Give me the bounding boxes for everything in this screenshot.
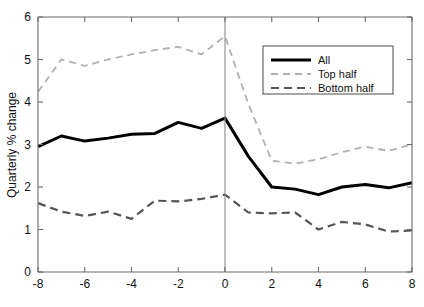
x-tick-label: -2 <box>173 277 184 291</box>
y-tick-label: 1 <box>24 223 31 237</box>
x-tick-label: 8 <box>409 277 416 291</box>
x-tick-label: -8 <box>33 277 44 291</box>
y-tick-label: 2 <box>24 180 31 194</box>
y-tick-label: 4 <box>24 95 31 109</box>
legend-label-top-half: Top half <box>318 68 357 80</box>
y-tick-label: 0 <box>24 265 31 279</box>
y-tick-label: 5 <box>24 53 31 67</box>
y-axis-title: Quarterly % change <box>5 92 19 198</box>
x-tick-label: 6 <box>362 277 369 291</box>
legend-label-all: All <box>318 54 330 66</box>
line-chart: -8-6-4-2024680123456 Quarterly % change … <box>0 0 424 307</box>
chart-legend: AllTop halfBottom half <box>263 46 393 94</box>
x-tick-label: -6 <box>79 277 90 291</box>
x-tick-label: 2 <box>268 277 275 291</box>
x-tick-label: -4 <box>126 277 137 291</box>
x-tick-label: 0 <box>222 277 229 291</box>
chart-container: -8-6-4-2024680123456 Quarterly % change … <box>0 0 424 307</box>
x-tick-label: 4 <box>315 277 322 291</box>
y-tick-label: 6 <box>24 10 31 24</box>
legend-label-bottom-half: Bottom half <box>318 82 375 94</box>
y-tick-label: 3 <box>24 138 31 152</box>
